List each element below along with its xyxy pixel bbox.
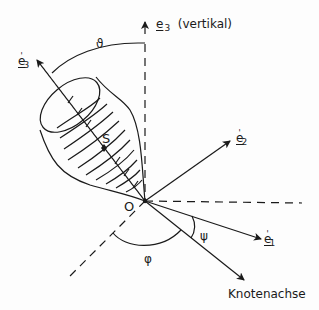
label-e1-prime: e'1	[264, 231, 275, 248]
label-e3-prime: e'3	[18, 53, 29, 70]
e2-prime-arrow	[145, 141, 230, 201]
label-origin: O	[124, 200, 134, 213]
label-e2-prime: e'2	[236, 130, 247, 147]
label-e3: e3 (vertikal)	[156, 18, 232, 33]
origin-point	[143, 199, 147, 203]
label-psi: ψ	[200, 230, 208, 242]
node-axis-arrow	[145, 201, 244, 280]
psi-arc	[191, 216, 195, 238]
label-phi: φ	[144, 253, 152, 265]
label-center-of-mass: S	[102, 132, 110, 145]
euler-angle-diagram: e3 (vertikal) e'3 e'2 e'1 ϑ φ ψ O S Knot…	[0, 0, 319, 310]
phi-arc	[113, 230, 181, 245]
e3-prime-arrow	[37, 60, 145, 201]
label-theta: ϑ	[96, 38, 103, 50]
diagram-drawing	[0, 0, 319, 310]
horizontal-axis-dashed	[145, 201, 302, 203]
label-node-axis: Knotenachse	[228, 288, 306, 300]
